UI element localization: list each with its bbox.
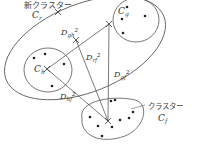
distance-gf-label: Dgf2: [113, 69, 130, 81]
centroid-markers: [44, 9, 112, 124]
cluster-h-label: Ch: [34, 64, 45, 75]
cluster-f-label-jp: クラスター: [148, 102, 183, 111]
distance-rf-label: Drf2: [85, 52, 101, 64]
cluster-f-points: [89, 99, 135, 138]
distance-gh-label: Dgh2: [60, 27, 79, 39]
merged-cluster-label-jp: 新クラスター: [24, 0, 72, 10]
cluster-diagram: 新クラスター Cr Ch Cg クラスター Cf Dgh2 Drf2 Dgf2 …: [0, 0, 200, 150]
merged-cluster-label: Cr: [32, 10, 43, 21]
cluster-f-label: Cf: [158, 113, 169, 125]
cluster-f-boundary: [82, 98, 144, 139]
